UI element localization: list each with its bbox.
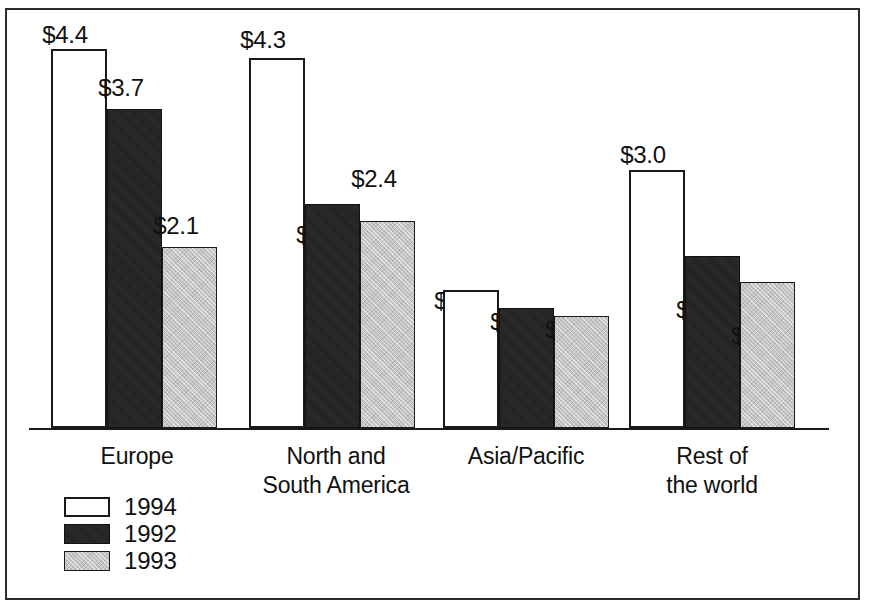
category-label-asia-pacific: Asia/Pacific (436, 442, 616, 471)
category-label-americas-line1: North and (286, 443, 385, 469)
bar-europe-1992[interactable] (107, 109, 162, 428)
bar-europe-1994[interactable] (51, 49, 107, 428)
category-label-americas-line2: South America (263, 472, 410, 498)
category-label-americas: North andSouth America (246, 442, 426, 500)
chart-legend: 1994 1992 1993 (64, 493, 177, 574)
legend-label-1994: 1994 (124, 493, 177, 521)
bar-asia-1993[interactable] (554, 316, 609, 428)
legend-item-1993[interactable]: 1993 (64, 547, 177, 574)
value-label-americas-1993: $2.4 (342, 165, 406, 193)
plot-area: $4.4 $3.7 $2.1 Europe $4.3 $2.6 $2.4 Nor… (7, 10, 862, 602)
value-label-americas-1994: $4.3 (231, 26, 295, 54)
category-label-europe: Europe (69, 442, 205, 471)
category-label-rest-line2: the world (666, 472, 758, 498)
value-label-europe-1993: $2.1 (144, 212, 208, 240)
legend-label-1993: 1993 (124, 547, 177, 575)
legend-swatch-1992-icon (64, 524, 110, 544)
value-label-europe-1994: $4.4 (33, 21, 97, 49)
legend-swatch-1993-icon (64, 551, 110, 571)
value-label-europe-1992: $3.7 (89, 74, 153, 102)
legend-swatch-1994-icon (64, 497, 110, 517)
legend-label-1992: 1992 (124, 520, 177, 548)
bar-americas-1992[interactable] (305, 204, 360, 428)
bar-americas-1993[interactable] (360, 221, 415, 428)
category-label-rest-of-world: Rest ofthe world (622, 442, 802, 500)
chart-frame: $4.4 $3.7 $2.1 Europe $4.3 $2.6 $2.4 Nor… (5, 8, 860, 600)
baseline-axis (29, 428, 829, 430)
bar-europe-1993[interactable] (162, 247, 217, 428)
value-label-rest-1994: $3.0 (611, 141, 675, 169)
legend-item-1992[interactable]: 1992 (64, 520, 177, 547)
legend-item-1994[interactable]: 1994 (64, 493, 177, 520)
category-label-rest-line1: Rest of (676, 443, 747, 469)
bar-rest-1993[interactable] (740, 282, 795, 428)
